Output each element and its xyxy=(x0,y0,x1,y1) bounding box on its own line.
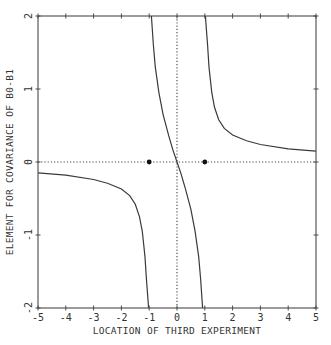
x-tick-label: 4 xyxy=(285,312,291,323)
curve-branch-1 xyxy=(38,173,149,308)
chart: -5-4-3-2-1012345 -2-1012 LOCATION OF THI… xyxy=(0,0,331,345)
x-tick-label: 2 xyxy=(230,312,236,323)
x-tick-label: 3 xyxy=(257,312,263,323)
x-tick-label: -4 xyxy=(60,312,72,323)
x-tick-label: -1 xyxy=(143,312,155,323)
x-axis-title: LOCATION OF THIRD EXPERIMENT xyxy=(93,325,262,336)
x-tick-label: 1 xyxy=(202,312,208,323)
x-tick-label: -2 xyxy=(115,312,127,323)
y-tick-label: -2 xyxy=(23,302,34,314)
x-axis-ticks: -5-4-3-2-1012345 xyxy=(32,14,319,324)
curve-branch-3 xyxy=(205,16,316,151)
x-tick-label: -3 xyxy=(88,312,100,323)
y-tick-label: 1 xyxy=(23,86,34,92)
marked-point xyxy=(202,160,207,165)
y-axis-ticks: -2-1012 xyxy=(23,13,319,314)
x-tick-label: 5 xyxy=(313,312,319,323)
y-tick-label: -1 xyxy=(23,229,34,241)
y-axis-title: ELEMENT FOR COVARIANCE OF B0-B1 xyxy=(4,69,15,256)
y-tick-label: 2 xyxy=(23,13,34,19)
marked-point xyxy=(147,160,152,165)
y-tick-label: 0 xyxy=(23,159,34,165)
x-tick-label: 0 xyxy=(174,312,180,323)
